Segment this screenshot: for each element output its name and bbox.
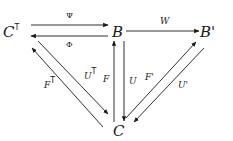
label-psi: Ψ — [66, 11, 73, 20]
node-b: B — [111, 23, 123, 41]
label-u-prime: U' — [178, 80, 188, 90]
label-u-transpose: UT — [84, 67, 97, 81]
label-u: U — [129, 76, 137, 86]
commutative-diagram: CT B B' C Ψ Φ W FT UT F U F' U' — [0, 0, 233, 141]
node-b-prime: B' — [199, 23, 215, 41]
arrow-u-transpose — [38, 41, 108, 114]
node-c: C — [113, 122, 125, 140]
arrow-f-transpose — [32, 48, 103, 127]
node-c-transpose: CT — [3, 23, 19, 41]
label-f: F — [102, 74, 110, 84]
label-w: W — [160, 16, 170, 26]
label-f-transpose: FT — [43, 76, 55, 90]
arrow-u-prime — [134, 48, 204, 122]
label-f-prime: F' — [144, 72, 154, 82]
label-phi: Φ — [66, 40, 73, 49]
